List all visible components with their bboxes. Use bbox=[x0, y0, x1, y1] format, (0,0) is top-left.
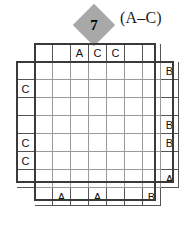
grid-cell-r7c2[interactable] bbox=[53, 170, 71, 188]
puzzle-number-badge: 7 bbox=[72, 3, 116, 47]
clue-right-1: B bbox=[161, 62, 179, 80]
clue-left-3 bbox=[17, 98, 35, 116]
grid-cell-r4c4[interactable] bbox=[89, 116, 107, 134]
grid-cell-r3c3[interactable] bbox=[71, 98, 89, 116]
clue-left-5: C bbox=[17, 134, 35, 152]
clue-bottom-1 bbox=[35, 188, 53, 206]
grid-cell-r5c7[interactable] bbox=[143, 134, 161, 152]
grid-cell-r2c5[interactable] bbox=[107, 80, 125, 98]
grid-cell-r2c7[interactable] bbox=[143, 80, 161, 98]
grid-cell-r2c2[interactable] bbox=[53, 80, 71, 98]
clue-bottom-3 bbox=[71, 188, 89, 206]
clue-right-4: B bbox=[161, 116, 179, 134]
clue-left-1 bbox=[17, 62, 35, 80]
grid-cell-r5c2[interactable] bbox=[53, 134, 71, 152]
grid-cell-r2c4[interactable] bbox=[89, 80, 107, 98]
grid-cell-r4c6[interactable] bbox=[125, 116, 143, 134]
grid-cell-r6c1[interactable] bbox=[35, 152, 53, 170]
clue-bottom-7: B bbox=[143, 188, 161, 206]
grid-cell-r1c3[interactable] bbox=[71, 62, 89, 80]
puzzle-header: 7 (A–C) bbox=[0, 0, 191, 46]
letter-range-label: (A–C) bbox=[120, 9, 162, 27]
grid-cell-r7c1[interactable] bbox=[35, 170, 53, 188]
clue-right-3 bbox=[161, 98, 179, 116]
grid-cell-r7c7[interactable] bbox=[143, 170, 161, 188]
grid-cell-r7c5[interactable] bbox=[107, 170, 125, 188]
grid-cell-r4c7[interactable] bbox=[143, 116, 161, 134]
clue-bottom-2: A bbox=[53, 188, 71, 206]
grid-cell-r5c3[interactable] bbox=[71, 134, 89, 152]
grid-cell-r3c7[interactable] bbox=[143, 98, 161, 116]
grid-cell-r2c1[interactable] bbox=[35, 80, 53, 98]
grid-cell-r7c6[interactable] bbox=[125, 170, 143, 188]
grid-cell-r3c2[interactable] bbox=[53, 98, 71, 116]
grid-cell-r1c5[interactable] bbox=[107, 62, 125, 80]
clue-top-6 bbox=[125, 44, 143, 62]
grid-cell-r4c3[interactable] bbox=[71, 116, 89, 134]
clue-top-2 bbox=[53, 44, 71, 62]
grid-cell-r6c4[interactable] bbox=[89, 152, 107, 170]
grid-cell-r4c2[interactable] bbox=[53, 116, 71, 134]
clue-right-6 bbox=[161, 152, 179, 170]
grid-cell-r7c3[interactable] bbox=[71, 170, 89, 188]
clue-left-4 bbox=[17, 116, 35, 134]
grid-cell-r1c4[interactable] bbox=[89, 62, 107, 80]
grid-cell-r1c2[interactable] bbox=[53, 62, 71, 80]
abc-puzzle: 7 (A–C) ACC AAB CCC BBBA bbox=[0, 0, 191, 237]
grid-cell-r1c7[interactable] bbox=[143, 62, 161, 80]
grid-cell-r5c6[interactable] bbox=[125, 134, 143, 152]
grid-cell-r5c1[interactable] bbox=[35, 134, 53, 152]
puzzle-number: 7 bbox=[72, 3, 116, 47]
clue-bottom-5 bbox=[107, 188, 125, 206]
clue-left-2: C bbox=[17, 80, 35, 98]
grid-cell-r5c5[interactable] bbox=[107, 134, 125, 152]
clue-top-5: C bbox=[107, 44, 125, 62]
grid-cell-r1c1[interactable] bbox=[35, 62, 53, 80]
grid-cell-r2c3[interactable] bbox=[71, 80, 89, 98]
clue-bottom-4: A bbox=[89, 188, 107, 206]
grid-cell-r2c6[interactable] bbox=[125, 80, 143, 98]
clue-top-4: C bbox=[89, 44, 107, 62]
clue-right-2 bbox=[161, 80, 179, 98]
grid-cell-r6c7[interactable] bbox=[143, 152, 161, 170]
grid-cell-r6c5[interactable] bbox=[107, 152, 125, 170]
grid-cell-r6c3[interactable] bbox=[71, 152, 89, 170]
grid-cell-r6c6[interactable] bbox=[125, 152, 143, 170]
grid-cell-r3c4[interactable] bbox=[89, 98, 107, 116]
grid-cell-r1c6[interactable] bbox=[125, 62, 143, 80]
clue-right-7: A bbox=[161, 170, 179, 188]
clue-right-5: B bbox=[161, 134, 179, 152]
clue-top-1 bbox=[35, 44, 53, 62]
grid-cell-r4c1[interactable] bbox=[35, 116, 53, 134]
grid-cell-r3c5[interactable] bbox=[107, 98, 125, 116]
clue-bottom-6 bbox=[125, 188, 143, 206]
grid-cell-r4c5[interactable] bbox=[107, 116, 125, 134]
clue-left-6: C bbox=[17, 152, 35, 170]
grid-cell-r3c6[interactable] bbox=[125, 98, 143, 116]
grid-cell-r6c2[interactable] bbox=[53, 152, 71, 170]
clue-top-3: A bbox=[71, 44, 89, 62]
clue-top-7 bbox=[143, 44, 161, 62]
grid-cell-r3c1[interactable] bbox=[35, 98, 53, 116]
grid-cell-r5c4[interactable] bbox=[89, 134, 107, 152]
grid-cell-r7c4[interactable] bbox=[89, 170, 107, 188]
clue-left-7 bbox=[17, 170, 35, 188]
